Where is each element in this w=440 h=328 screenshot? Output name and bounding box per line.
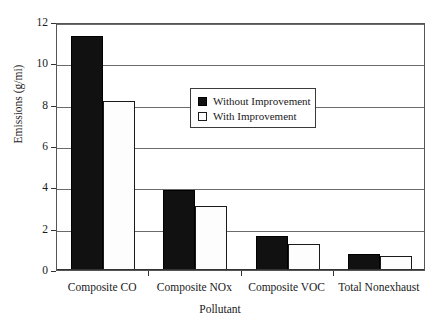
plot-area <box>56 23 425 271</box>
legend-swatch-icon <box>198 112 207 121</box>
y-axis-tick-mark <box>51 271 56 272</box>
legend-item-without-improvement: Without Improvement <box>198 94 308 108</box>
bar <box>256 236 288 270</box>
bar <box>288 244 320 270</box>
y-axis-tick-label: 4 <box>18 182 48 194</box>
x-axis-title: Pollutant <box>0 303 440 315</box>
bar <box>348 254 380 270</box>
chart-legend: Without Improvement With Improvement <box>190 88 316 128</box>
chart-figure: Emissions (g/mi) 024681012 Composite COC… <box>0 0 440 328</box>
x-axis-tick-label: Total Nonexhaust <box>333 281 425 293</box>
bar <box>380 256 412 270</box>
y-axis-tick-label: 0 <box>18 265 48 277</box>
x-axis-tick-label: Composite CO <box>56 281 148 293</box>
bar <box>71 36 103 270</box>
gridline <box>57 24 424 25</box>
x-axis-baseline <box>57 269 424 270</box>
legend-label: With Improvement <box>213 111 297 122</box>
x-axis-tick-mark <box>148 271 149 276</box>
x-axis-tick-mark <box>333 271 334 276</box>
bar <box>103 101 135 270</box>
legend-swatch-icon <box>198 97 207 106</box>
y-axis-tick-label: 6 <box>18 141 48 153</box>
bar <box>163 190 195 270</box>
legend-label: Without Improvement <box>213 96 311 107</box>
x-axis-tick-mark <box>241 271 242 276</box>
x-axis-tick-label: Composite VOC <box>241 281 333 293</box>
y-axis-tick-label: 2 <box>18 224 48 236</box>
legend-item-with-improvement: With Improvement <box>198 109 308 123</box>
y-axis-tick-label: 10 <box>18 58 48 70</box>
x-axis-tick-label: Composite NOx <box>148 281 240 293</box>
y-axis-tick-label: 12 <box>18 17 48 29</box>
bar <box>195 206 227 270</box>
y-axis-tick-label: 8 <box>18 100 48 112</box>
gridline <box>57 65 424 66</box>
